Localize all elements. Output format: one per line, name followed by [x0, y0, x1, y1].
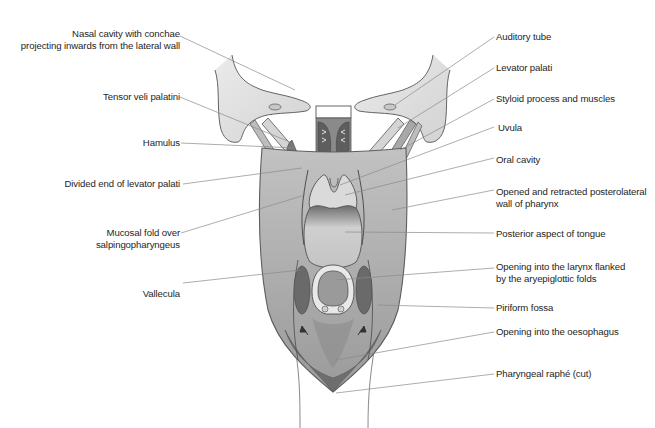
label-auditory-tube: Auditory tube	[496, 31, 551, 43]
label-mucosal-fold: Mucosal fold over salpingopharyngeus	[96, 227, 180, 251]
label-oesophagus-opening: Opening into the oesophagus	[496, 326, 619, 338]
label-oral-cavity: Oral cavity	[496, 154, 540, 166]
uvula	[330, 178, 338, 187]
label-piriform-fossa: Piriform fossa	[496, 302, 553, 314]
skull-base-right	[355, 55, 450, 142]
label-vallecula: Vallecula	[143, 288, 180, 300]
label-styloid-process: Styloid process and muscles	[496, 93, 615, 105]
label-pharyngeal-raphe: Pharyngeal raphé (cut)	[496, 368, 591, 380]
label-nasal-cavity: Nasal cavity with conchae projecting inw…	[21, 28, 180, 52]
label-uvula: Uvula	[498, 122, 522, 134]
skull-base-left	[215, 55, 310, 142]
pharynx-diagram	[0, 0, 655, 428]
label-posterior-tongue: Posterior aspect of tongue	[496, 228, 605, 240]
laryngeal-inlet	[312, 265, 354, 314]
label-larynx-opening: Opening into the larynx flanked by the a…	[496, 261, 625, 285]
label-divided-end-levator-palati: Divided end of levator palati	[65, 178, 181, 190]
tongue-posterior	[304, 206, 362, 268]
label-levator-palati: Levator palati	[496, 62, 552, 74]
vomer-block	[316, 106, 351, 118]
label-hamulus: Hamulus	[143, 137, 180, 149]
label-tensor-veli-palatini: Tensor veli palatini	[103, 91, 180, 103]
label-posterolateral-wall: Opened and retracted posterolateral wall…	[496, 186, 647, 210]
